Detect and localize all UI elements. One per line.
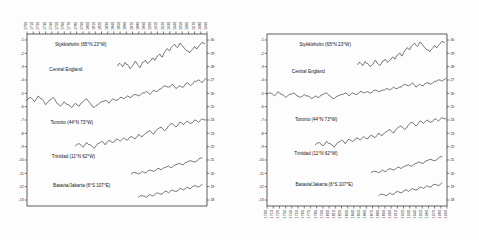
y-tick-label-right: 30 <box>210 38 214 42</box>
x-tick-label: 1950 <box>419 210 423 218</box>
y-tick-label-right: 19 <box>210 185 214 189</box>
y-tick-label-left: -11 <box>259 172 264 176</box>
y-tick-label-left: -11 <box>19 172 24 176</box>
y-tick-label-left: -9 <box>20 145 23 149</box>
x-tick-label: 1990 <box>444 210 448 218</box>
y-tick-label-left: -8 <box>20 132 23 136</box>
y-axis-right-right: 30292827262524232221201918 <box>447 38 454 202</box>
y-tick-label-left: -10 <box>259 158 264 162</box>
series-line <box>379 183 442 196</box>
series-line <box>358 41 445 67</box>
y-tick-label-left: -9 <box>260 145 263 149</box>
y-tick-label-right: 25 <box>210 105 214 109</box>
y-tick-label-left: -3 <box>20 65 23 69</box>
x-tick-label: 1940 <box>413 210 417 218</box>
x-tick-label: 1860 <box>123 22 127 30</box>
x-tick-label: 1710 <box>270 210 274 218</box>
y-tick-label-right: 28 <box>450 65 454 69</box>
x-tick-label: 1870 <box>130 22 134 30</box>
y-tick-label-right: 19 <box>450 185 454 189</box>
y-tick-label-left: -4 <box>260 78 263 82</box>
y-axis-left-right: -1-2-3-4-5-6-7-8-9-10-11-12-13 <box>259 38 267 202</box>
y-tick-label-right: 24 <box>450 118 454 122</box>
y-tick-label-left: -7 <box>260 118 263 122</box>
x-tick-label: 1780 <box>314 210 318 218</box>
x-tick-label: 1840 <box>351 210 355 218</box>
series-line <box>131 158 202 174</box>
x-tick-label: 1900 <box>148 22 152 30</box>
x-tick-label: 1880 <box>376 210 380 218</box>
x-axis-right: 1700171017201730174017501760177017801790… <box>264 206 448 218</box>
y-tick-label-left: -1 <box>20 38 23 42</box>
x-tick-label: 1760 <box>301 210 305 218</box>
series-label: Batavia/Jakarta (6°S 107°E) <box>53 183 111 188</box>
series-line <box>139 184 202 197</box>
x-tick-label: 1960 <box>185 22 189 30</box>
x-tick-label: 1880 <box>136 22 140 30</box>
series-line <box>75 119 205 149</box>
y-tick-label-right: 21 <box>450 158 454 162</box>
y-tick-label-left: -12 <box>259 185 264 189</box>
y-axis-right-left: 30292827262524232221201918 <box>207 38 214 202</box>
x-tick-label: 1750 <box>55 22 59 30</box>
series-label: Toronto (44°N 73°W) <box>51 120 94 125</box>
y-tick-label-right: 28 <box>210 65 214 69</box>
series-line <box>118 42 205 69</box>
y-tick-label-left: -12 <box>19 185 24 189</box>
y-tick-label-right: 18 <box>450 198 454 202</box>
y-tick-label-right: 23 <box>210 132 214 136</box>
y-tick-label-left: -6 <box>20 105 23 109</box>
y-tick-label-left: -5 <box>20 92 23 96</box>
x-tick-label: 1890 <box>382 210 386 218</box>
y-tick-label-left: -6 <box>260 105 263 109</box>
y-tick-label-left: -8 <box>260 132 263 136</box>
y-tick-label-right: 29 <box>450 52 454 56</box>
y-tick-label-right: 22 <box>210 145 214 149</box>
x-tick-label: 1740 <box>289 210 293 218</box>
y-tick-label-right: 24 <box>210 118 214 122</box>
x-tick-label: 1900 <box>388 210 392 218</box>
series-line <box>267 78 446 98</box>
series-label: Central England <box>292 69 325 74</box>
y-axis-left-left: -1-2-3-4-5-6-7-8-9-10-11-12-13 <box>19 38 27 202</box>
x-tick-label: 1820 <box>98 22 102 30</box>
y-tick-label-left: -10 <box>19 158 24 162</box>
plot-area-right: 1700171017201730174017501760177017801790… <box>240 0 479 240</box>
series-line <box>315 118 445 148</box>
x-tick-label: 1800 <box>326 210 330 218</box>
x-tick-label: 1920 <box>161 22 165 30</box>
y-tick-label-right: 27 <box>450 78 454 82</box>
x-tick-label: 1960 <box>425 210 429 218</box>
x-tick-label: 1700 <box>24 22 28 30</box>
y-tick-label-right: 22 <box>450 145 454 149</box>
x-tick-label: 1740 <box>49 22 53 30</box>
x-tick-label: 1770 <box>307 210 311 218</box>
series-label: Toronto (44°N 73°W) <box>295 117 338 122</box>
x-axis-left: 1700171017201730174017501760177017801790… <box>24 22 208 34</box>
x-tick-label: 1970 <box>192 22 196 30</box>
y-tick-label-right: 20 <box>450 172 454 176</box>
x-tick-label: 1980 <box>438 210 442 218</box>
series-label: Stykkisholm (65°N 23°W) <box>55 42 107 47</box>
x-tick-label: 1790 <box>320 210 324 218</box>
series-label: Central England <box>49 67 82 72</box>
x-tick-label: 1700 <box>264 210 268 218</box>
y-tick-label-left: -7 <box>20 118 23 122</box>
x-tick-label: 1770 <box>67 22 71 30</box>
plot-area-left: 1700171017201730174017501760177017801790… <box>0 0 240 240</box>
x-tick-label: 1930 <box>407 210 411 218</box>
y-tick-label-left: -1 <box>260 38 263 42</box>
series-label: Trinidad (11°N 62°W) <box>294 151 338 156</box>
y-tick-label-right: 21 <box>210 158 214 162</box>
series-line <box>27 78 206 107</box>
x-tick-label: 1990 <box>204 22 208 30</box>
y-tick-label-right: 20 <box>210 172 214 176</box>
x-tick-label: 1940 <box>173 22 177 30</box>
x-tick-label: 1720 <box>36 22 40 30</box>
y-tick-label-left: -4 <box>20 78 23 82</box>
x-tick-label: 1850 <box>117 22 121 30</box>
y-tick-label-right: 29 <box>210 52 214 56</box>
y-tick-label-right: 27 <box>210 78 214 82</box>
x-tick-label: 1820 <box>338 210 342 218</box>
x-tick-label: 1910 <box>394 210 398 218</box>
